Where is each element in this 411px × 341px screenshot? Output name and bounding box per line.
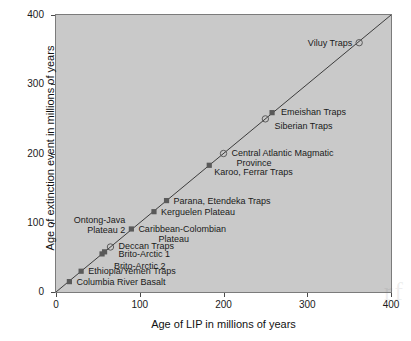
watermark: rf	[384, 277, 405, 307]
data-point-filled-square	[79, 269, 84, 274]
data-point-filled-square	[151, 209, 156, 214]
x-tick-mark	[224, 293, 225, 297]
point-label: Brito-Arctic 2	[114, 261, 166, 271]
x-tick-mark	[140, 293, 141, 297]
point-label: Columbia River Basalt	[76, 277, 165, 287]
point-label: Kerguelen Plateau	[161, 207, 235, 217]
point-label: Parana, Etendeka Traps	[174, 196, 271, 206]
data-point-filled-square	[67, 279, 72, 284]
x-axis-title: Age of LIP in millions of years	[55, 318, 392, 330]
y-axis-title: Age of extinction event in millions of y…	[44, 18, 56, 278]
x-tick-label: 0	[36, 299, 76, 310]
point-label: Siberian Traps	[274, 121, 332, 131]
point-label: Emeishan Traps	[281, 107, 346, 117]
y-tick-mark	[51, 292, 55, 293]
point-label: Caribbean-Colombian Plateau	[138, 224, 226, 244]
point-label: Karoo, Ferrar Traps	[214, 167, 293, 177]
data-point-filled-square	[129, 226, 134, 231]
x-tick-label: 300	[287, 299, 327, 310]
y-tick-label: 0	[12, 286, 44, 297]
chart-figure: 01002003004000100200300400 Columbia Rive…	[0, 0, 411, 341]
data-point-filled-square	[207, 163, 212, 168]
y-tick-label: 300	[12, 78, 44, 89]
x-tick-mark	[56, 293, 57, 297]
point-label: Central Atlantic Magmatic Province	[232, 148, 334, 168]
point-label: Ontong-Java Plateau 2	[74, 215, 126, 235]
x-tick-label: 200	[204, 299, 244, 310]
y-tick-mark	[51, 15, 55, 16]
y-tick-label: 100	[12, 217, 44, 228]
x-tick-mark	[307, 293, 308, 297]
scatter-plot-svg	[56, 15, 391, 292]
x-tick-label: 100	[120, 299, 160, 310]
point-label: Viluy Traps	[308, 38, 352, 48]
data-point-filled-square	[269, 110, 274, 115]
data-point-filled-square	[164, 198, 169, 203]
plot-area	[55, 14, 392, 293]
y-tick-label: 200	[12, 148, 44, 159]
data-point-filled-square	[102, 249, 107, 254]
y-tick-label: 400	[12, 9, 44, 20]
